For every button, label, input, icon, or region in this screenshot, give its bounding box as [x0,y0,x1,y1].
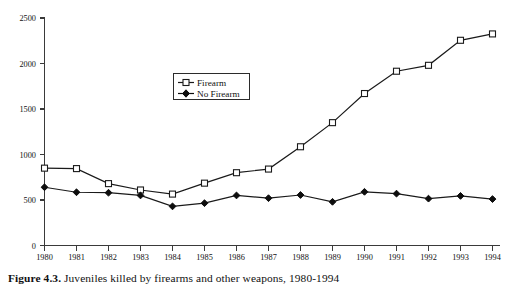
data-point-marker [41,184,48,191]
data-point-marker [393,190,400,197]
x-tick-label: 1989 [324,253,341,262]
data-point-marker [457,193,464,200]
y-tick-label: 0 [32,242,36,251]
data-point-marker [169,203,176,210]
series-firearm [42,31,496,197]
legend-label-firearm: Firearm [197,78,226,88]
data-point-marker [297,192,304,199]
data-point-marker [266,166,272,172]
y-tick-label: 2000 [19,60,36,69]
data-point-marker [329,198,336,205]
data-point-marker [490,31,496,37]
data-point-marker [234,170,240,176]
data-point-marker [426,62,432,68]
figure-caption: Figure 4.3. Juveniles killed by firearms… [8,272,512,284]
y-tick-label: 1500 [19,105,36,114]
line-chart: 05001000150020002500 1980198119821983198… [0,0,520,266]
data-point-marker [361,188,368,195]
data-point-marker [489,196,496,203]
x-tick-label: 1994 [484,253,501,262]
data-point-marker [74,166,80,172]
data-point-marker [233,192,240,199]
y-tick-label: 2500 [19,14,36,23]
data-point-marker [42,165,48,171]
data-series-layer [41,31,496,210]
x-tick-label: 1983 [132,253,149,262]
x-tick-label: 1980 [36,253,53,262]
data-point-marker [202,180,208,186]
figure-number: Figure 4.3. [8,272,61,284]
x-tick-label: 1991 [388,253,405,262]
y-tick-label: 500 [24,196,36,205]
data-point-marker [201,200,208,207]
legend-label-no-firearm: No Firearm [197,89,240,99]
series-no-firearm [41,184,496,210]
x-tick-label: 1987 [260,253,277,262]
data-point-marker [73,189,80,196]
data-point-marker [298,144,304,150]
x-tick-label: 1990 [356,253,373,262]
x-tick-label: 1986 [228,253,245,262]
y-tick-label: 1000 [19,151,36,160]
y-axis-ticks: 05001000150020002500 [19,14,44,251]
figure-container: 05001000150020002500 1980198119821983198… [0,0,520,298]
data-point-marker [105,189,112,196]
data-point-marker [330,120,336,126]
data-point-marker [106,181,112,187]
data-point-marker [170,191,176,197]
data-point-marker [265,195,272,202]
data-point-marker [362,91,368,97]
x-axis-ticks: 1980198119821983198419851986198719881989… [36,246,501,263]
x-tick-label: 1988 [292,253,309,262]
data-point-marker [394,68,400,74]
data-point-marker [425,195,432,202]
x-tick-label: 1993 [452,253,469,262]
x-tick-label: 1985 [196,253,213,262]
x-tick-label: 1992 [420,253,437,262]
figure-caption-text: Juveniles killed by firearms and other w… [64,272,339,284]
chart-legend: Firearm No Firearm [174,74,250,100]
x-tick-label: 1981 [68,253,85,262]
x-tick-label: 1984 [164,253,181,262]
legend-marker-open-square [183,80,189,86]
x-tick-label: 1982 [100,253,117,262]
data-point-marker [458,37,464,43]
chart-plot-area: 05001000150020002500 1980198119821983198… [0,0,520,266]
